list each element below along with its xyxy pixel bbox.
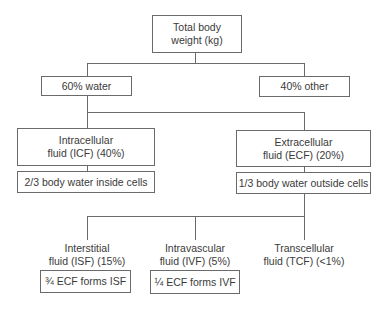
isf-note: ¾ ECF forms ISF <box>45 275 126 288</box>
connector-to-other <box>304 63 305 76</box>
water-label: 60% water <box>62 80 112 93</box>
ecf-line2: fluid (ECF) (20%) <box>263 149 344 162</box>
connector-to-ecf <box>304 112 305 130</box>
connector-level2-bar <box>87 112 305 113</box>
connector-to-isf <box>87 216 88 240</box>
icf-note: 2/3 body water inside cells <box>24 176 147 189</box>
ecf-note: 1/3 body water outside cells <box>239 177 369 190</box>
connector-to-ivf <box>195 216 196 240</box>
connector-to-icf <box>87 112 88 128</box>
connector-level1-bar <box>87 63 305 64</box>
connector-level3-bar <box>87 216 305 217</box>
total-body-weight-line2: weight (kg) <box>171 34 222 47</box>
water-box: 60% water <box>41 76 132 96</box>
total-body-weight-line1: Total body <box>173 21 221 34</box>
tcf-label: Transcellular fluid (TCF) (<1%) <box>248 242 360 268</box>
ivf-label: Intravascular fluid (IVF) (5%) <box>140 242 250 268</box>
connector-water-down <box>87 95 88 112</box>
ivf-line1: Intravascular <box>140 242 250 255</box>
connector-root-down <box>195 52 196 63</box>
icf-box: Intracellular fluid (ICF) (40%) <box>17 128 155 166</box>
ivf-line2: fluid (IVF) (5%) <box>140 255 250 268</box>
isf-line2: fluid (ISF) (15%) <box>32 255 142 268</box>
connector-to-tcf <box>304 216 305 240</box>
icf-note-box: 2/3 body water inside cells <box>17 171 155 193</box>
ecf-line1: Extracellular <box>275 136 333 149</box>
ivf-note: ¼ ECF forms IVF <box>154 276 235 289</box>
connector-ecf-down <box>304 193 305 216</box>
tcf-line1: Transcellular <box>248 242 360 255</box>
ecf-box: Extracellular fluid (ECF) (20%) <box>236 130 371 167</box>
isf-label: Interstitial fluid (ISF) (15%) <box>32 242 142 268</box>
icf-line2: fluid (ICF) (40%) <box>47 147 124 160</box>
ecf-note-box: 1/3 body water outside cells <box>236 172 371 194</box>
other-label: 40% other <box>281 80 329 93</box>
isf-line1: Interstitial <box>32 242 142 255</box>
other-box: 40% other <box>259 76 350 97</box>
isf-note-box: ¾ ECF forms ISF <box>40 270 131 293</box>
connector-to-water <box>87 63 88 76</box>
tcf-line2: fluid (TCF) (<1%) <box>248 255 360 268</box>
total-body-weight-box: Total body weight (kg) <box>152 15 242 53</box>
ivf-note-box: ¼ ECF forms IVF <box>150 270 240 294</box>
icf-line1: Intracellular <box>59 134 113 147</box>
